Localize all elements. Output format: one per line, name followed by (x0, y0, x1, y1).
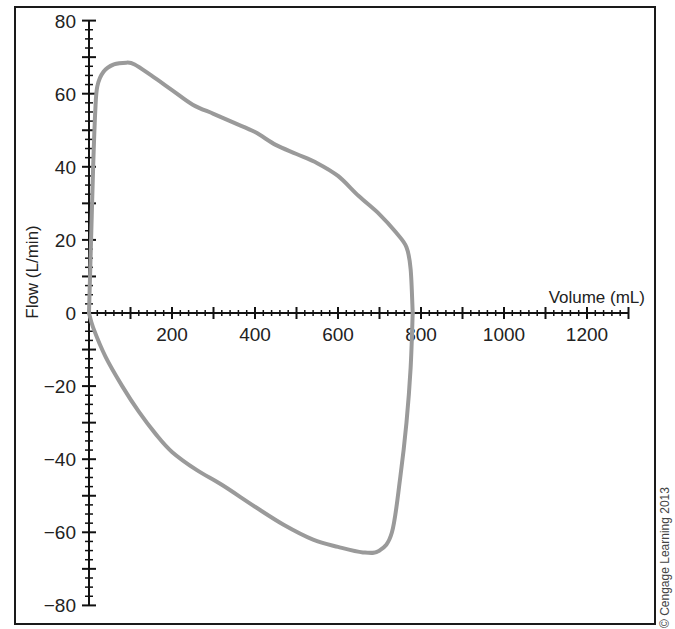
x-axis-title: Volume (mL) (549, 288, 645, 307)
y-tick-label: 20 (55, 230, 76, 251)
y-tick-label: 40 (55, 157, 76, 178)
flow-volume-curves (89, 63, 413, 553)
y-tick-label: −80 (44, 595, 76, 616)
y-axis-title: Flow (L/min) (23, 225, 42, 319)
x-tick-label: 200 (156, 324, 188, 345)
y-tick-label: 0 (65, 303, 76, 324)
axes: 806040200−20−40−60−802004006008001000120… (44, 11, 629, 617)
flow-volume-loop-chart: 806040200−20−40−60−802004006008001000120… (0, 0, 675, 629)
inspiratory-curve (89, 63, 413, 313)
y-tick-label: −40 (44, 449, 76, 470)
x-tick-label: 1200 (566, 324, 608, 345)
x-tick-label: 1000 (483, 324, 525, 345)
copyright-notice: © Cengage Learning 2013 (658, 487, 672, 628)
y-tick-label: −20 (44, 376, 76, 397)
x-tick-label: 600 (322, 324, 354, 345)
axis-labels: Volume (mL) Flow (L/min) (23, 225, 645, 319)
x-tick-label: 400 (239, 324, 271, 345)
y-tick-label: 60 (55, 84, 76, 105)
y-tick-label: 80 (55, 11, 76, 32)
y-tick-label: −60 (44, 522, 76, 543)
expiratory-curve (89, 313, 413, 553)
